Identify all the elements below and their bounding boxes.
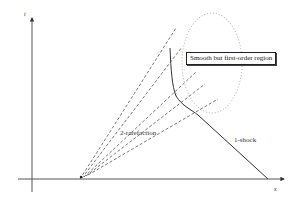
x-axis-label: x	[274, 186, 277, 192]
rarefaction-label: 2-rarefaction	[120, 130, 156, 137]
fan-origin-point	[80, 176, 82, 178]
shock-curve	[170, 48, 268, 179]
t-axis-label: t	[24, 11, 26, 17]
rarefaction-fan	[80, 28, 218, 179]
wave-diagram	[0, 0, 296, 202]
shock-label: 1-shock	[234, 137, 256, 144]
smooth-region-callout: Smooth but first-order region	[186, 52, 276, 65]
